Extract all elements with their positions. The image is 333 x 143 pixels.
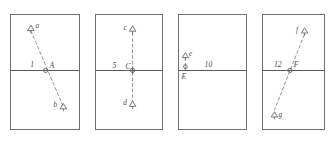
panel-3: e E 10 [179, 15, 247, 130]
figure-canvas: a b A 1 [0, 0, 333, 143]
panel-3-value-label: 10 [205, 60, 213, 69]
panel-4-value-label: 12 [274, 60, 282, 69]
panel-4: f g F 12 [263, 15, 325, 130]
panel-3-marker-e [182, 53, 188, 60]
panel-4-label-g: g [278, 111, 282, 119]
panel-2-label-c: c [123, 24, 127, 32]
panel-1-node-label: A [49, 61, 55, 70]
panel-3-node-label: E [181, 72, 187, 81]
panel-2-marker-d [129, 101, 136, 109]
panel-2-label-d: d [123, 99, 127, 107]
panel-1-node-A [42, 68, 49, 72]
panel-1-value-label: 1 [30, 60, 34, 69]
panel-2-frame [96, 15, 163, 130]
panel-4-label-f: f [296, 26, 299, 34]
panel-1-marker-a [28, 25, 35, 33]
panel-2: c d C 5 [96, 15, 163, 130]
panel-2-value-label: 5 [112, 61, 116, 70]
panel-1: a b A 1 [11, 15, 80, 130]
figure-root: a b A 1 [0, 0, 333, 143]
panel-1-label-a: a [35, 22, 39, 30]
panel-3-label-e: e [189, 50, 193, 58]
panel-2-marker-c [129, 26, 136, 34]
panel-1-marker-b [60, 103, 67, 111]
panel-4-frame [263, 15, 325, 130]
panel-4-node-label: F [293, 60, 299, 69]
panel-4-marker-g [271, 112, 277, 120]
panel-1-label-b: b [53, 101, 57, 109]
panel-3-frame [179, 15, 247, 130]
panel-4-marker-f [301, 28, 307, 36]
